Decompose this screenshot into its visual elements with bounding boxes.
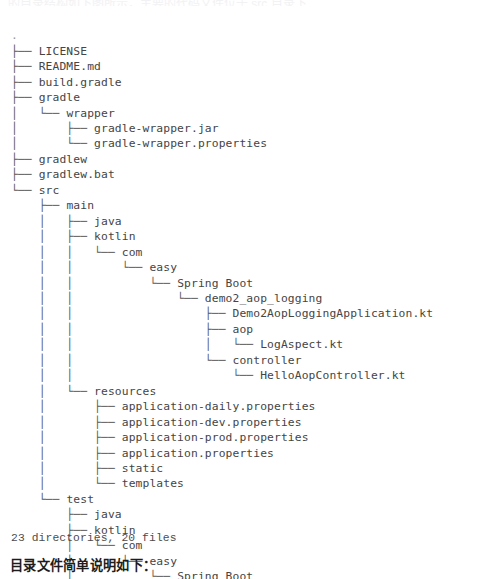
tree-branch-glyphs: ├── [11, 168, 39, 181]
tree-node-label: com [122, 246, 143, 259]
tree-branch-glyphs: ├── [11, 76, 39, 89]
tree-branch-glyphs: │ └── [11, 477, 122, 490]
section-caption: 目录文件简单说明如下： [10, 556, 156, 575]
tree-line: │ │ │ └── LogAspect.kt [11, 338, 343, 351]
tree-branch-glyphs: │ │ └── [11, 277, 177, 290]
tree-line: │ │ └── controller [11, 354, 302, 367]
tree-branch-glyphs: │ │ └── [11, 369, 260, 382]
tree-line: ├── build.gradle [11, 76, 122, 89]
tree-branch-glyphs: └── [11, 184, 39, 197]
tree-node-label: easy [149, 261, 177, 274]
tree-node-label: application.properties [122, 447, 274, 460]
tree-line: ├── LICENSE [11, 45, 87, 58]
tree-line: ├── main [11, 199, 94, 212]
tree-line: │ ├── static [11, 462, 163, 475]
tree-line: ├── java [11, 508, 122, 521]
tree-node-label: HelloAopController.kt [260, 369, 405, 382]
tree-line: └── src [11, 184, 59, 197]
tree-node-label: aop [232, 323, 253, 336]
tree-branch-glyphs: └── [11, 493, 66, 506]
tree-line: ├── gradlew [11, 153, 87, 166]
tree-node-label: gradlew [39, 153, 87, 166]
tree-branch-glyphs: │ └── [11, 137, 94, 150]
tree-line: ├── README.md [11, 60, 101, 73]
tree-node-label: test [66, 493, 94, 506]
tree-node-label: java [94, 508, 122, 521]
tree-branch-glyphs: │ ├── [11, 215, 94, 228]
tree-branch-glyphs: │ ├── [11, 400, 122, 413]
tree-node-label: src [39, 184, 60, 197]
tree-branch-glyphs: │ ├── [11, 230, 94, 243]
tree-node-label: LICENSE [39, 45, 87, 58]
directory-tree: . ├── LICENSE ├── README.md ├── build.gr… [11, 28, 468, 579]
tree-line: │ │ └── demo2_aop_logging [11, 292, 322, 305]
tree-node-label: application-dev.properties [122, 416, 302, 429]
tree-node-label: wrapper [66, 107, 114, 120]
tree-branch-glyphs: ├── [11, 60, 39, 73]
tree-node-label: gradle-wrapper.properties [94, 137, 267, 150]
tree-line: │ └── templates [11, 477, 184, 490]
clipped-previous-paragraph: 的目录结构如下图所示，主要的代码文件位于 src 目录下 [8, 0, 488, 6]
tree-node-label: resources [94, 385, 156, 398]
tree-line: │ ├── application-prod.properties [11, 431, 309, 444]
tree-branch-glyphs: │ │ └── [11, 261, 149, 274]
tree-line: │ └── resources [11, 385, 156, 398]
tree-line: └── test [11, 493, 94, 506]
tree-branch-glyphs: │ ├── [11, 431, 122, 444]
tree-branch-glyphs: │ └── [11, 385, 94, 398]
tree-node-label: controller [232, 354, 301, 367]
tree-branch-glyphs: │ │ │ └── [11, 338, 260, 351]
tree-line: ├── gradlew.bat [11, 168, 115, 181]
tree-root-node: . [11, 29, 18, 42]
tree-branch-glyphs: │ │ ├── [11, 323, 232, 336]
tree-node-label: Demo2AopLoggingApplication.kt [232, 307, 433, 320]
tree-node-label: demo2_aop_logging [205, 292, 323, 305]
tree-branch-glyphs: ├── [11, 45, 39, 58]
tree-node-label: main [66, 199, 94, 212]
tree-summary-line: 23 directories, 20 files [11, 531, 177, 546]
tree-node-label: static [122, 462, 164, 475]
tree-line: │ │ └── Spring Boot [11, 277, 253, 290]
tree-line: │ ├── application.properties [11, 447, 274, 460]
tree-node-label: templates [122, 477, 184, 490]
tree-branch-glyphs: │ │ └── [11, 246, 122, 259]
tree-node-label: Spring Boot [177, 277, 253, 290]
tree-node-label: build.gradle [39, 76, 122, 89]
tree-node-label: kotlin [94, 230, 136, 243]
tree-line: │ │ ├── aop [11, 323, 253, 336]
tree-node-label: java [94, 215, 122, 228]
tree-line: │ │ └── HelloAopController.kt [11, 369, 406, 382]
tree-line: │ │ └── easy [11, 261, 177, 274]
tree-branch-glyphs: ├── [11, 153, 39, 166]
tree-line: │ ├── application-dev.properties [11, 416, 302, 429]
tree-line: │ └── wrapper [11, 107, 115, 120]
tree-branch-glyphs: │ ├── [11, 122, 94, 135]
tree-line: │ ├── java [11, 215, 122, 228]
tree-line: │ ├── kotlin [11, 230, 136, 243]
tree-branch-glyphs: ├── [11, 91, 39, 104]
tree-branch-glyphs: ├── [11, 199, 66, 212]
tree-line: │ └── gradle-wrapper.properties [11, 137, 267, 150]
tree-node-label: README.md [39, 60, 101, 73]
tree-node-label: Spring Boot [177, 570, 253, 579]
tree-branch-glyphs: │ │ └── [11, 354, 232, 367]
tree-line: │ │ ├── Demo2AopLoggingApplication.kt [11, 307, 433, 320]
tree-line: ├── gradle [11, 91, 80, 104]
tree-node-label: application-daily.properties [122, 400, 316, 413]
tree-branch-glyphs: │ │ ├── [11, 307, 232, 320]
tree-branch-glyphs: │ ├── [11, 462, 122, 475]
tree-node-label: gradle-wrapper.jar [94, 122, 219, 135]
tree-node-label: application-prod.properties [122, 431, 309, 444]
tree-line: │ │ └── com [11, 246, 143, 259]
tree-branch-glyphs: │ ├── [11, 447, 122, 460]
tree-line: │ ├── gradle-wrapper.jar [11, 122, 219, 135]
tree-node-label: gradlew.bat [39, 168, 115, 181]
tree-line: │ ├── application-daily.properties [11, 400, 316, 413]
tree-node-label: LogAspect.kt [260, 338, 343, 351]
tree-branch-glyphs: ├── [11, 508, 94, 521]
tree-node-label: gradle [39, 91, 81, 104]
tree-branch-glyphs: │ │ └── [11, 292, 205, 305]
tree-branch-glyphs: │ └── [11, 107, 66, 120]
tree-branch-glyphs: │ ├── [11, 416, 122, 429]
